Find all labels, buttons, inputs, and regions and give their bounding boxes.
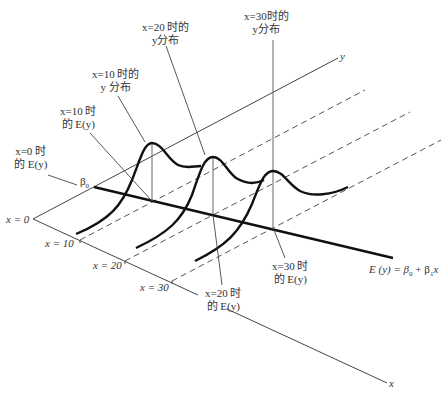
- callout-line2: 的 E(y): [60, 118, 96, 131]
- callout-x20-ey: x=20 时 的 E(y): [205, 287, 241, 313]
- leader-x0-ey: [48, 175, 77, 185]
- beta-subscript: 0: [86, 182, 90, 190]
- leader-x30-ey: [274, 230, 285, 258]
- callout-line2: 的 E(y): [14, 158, 47, 171]
- callout-x20-dist: x=20 时的 y分布: [142, 21, 189, 47]
- tick-label-x0: x = 0: [6, 213, 29, 226]
- callout-line1: x=0 时: [14, 145, 47, 158]
- callout-x0-ey: x=0 时 的 E(y): [14, 145, 47, 171]
- intercept-label: β0: [80, 175, 89, 193]
- y-axis-label: y: [340, 50, 345, 63]
- tick-label-x10: x = 10: [45, 237, 74, 250]
- callout-line2: y分布: [142, 34, 189, 47]
- leader-x10-dist: [118, 96, 145, 142]
- callout-line1: x=30时的: [244, 10, 289, 23]
- callout-line2: y 分布: [92, 81, 139, 94]
- equation-lhs: E (y) = β: [369, 263, 409, 275]
- callout-line2: 的 E(y): [272, 273, 308, 286]
- callout-line1: x=30 时: [272, 260, 308, 273]
- tick-label-x20: x = 20: [93, 259, 122, 272]
- callout-line1: x=20 时: [205, 287, 241, 300]
- x-axis-extension: [227, 309, 387, 383]
- distribution-curve-x10: [76, 143, 201, 234]
- regression-diagram: [0, 0, 441, 399]
- x-axis: [33, 219, 198, 295]
- callout-line1: x=20 时的: [142, 21, 189, 34]
- x-axis-label: x: [389, 377, 394, 390]
- callout-line1: x=10 时: [60, 105, 96, 118]
- callout-line1: x=10 时的: [92, 68, 139, 81]
- y-axis: [33, 58, 338, 219]
- callout-line2: y分布: [244, 23, 289, 36]
- equation-rhs: x: [433, 263, 438, 275]
- equation-mid: + β: [413, 263, 430, 275]
- callout-x30-dist: x=30时的 y分布: [244, 10, 289, 36]
- tick-label-x30: x = 30: [140, 281, 169, 294]
- leader-x10-ey: [90, 133, 151, 200]
- callout-line2: 的 E(y): [205, 300, 241, 313]
- callout-x30-ey: x=30 时 的 E(y): [272, 260, 308, 286]
- callout-x10-dist: x=10 时的 y 分布: [92, 68, 139, 94]
- callout-x10-ey: x=10 时 的 E(y): [60, 105, 96, 131]
- regression-equation: E (y) = β0 + β1x: [369, 263, 438, 281]
- dashed-gridline-x20: [125, 112, 410, 261]
